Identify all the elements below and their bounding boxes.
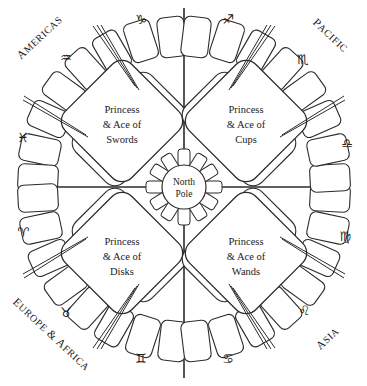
quadrant-label-wands: Princess [229, 236, 264, 247]
region-label-asia: ASIA [313, 324, 341, 351]
outer-card [180, 320, 212, 363]
outer-card [17, 183, 58, 212]
libra-icon: ♎ [341, 136, 353, 151]
quadrant-label-wands: Wands [232, 266, 260, 277]
quadrant-label-disks: & Ace of [103, 251, 142, 262]
scorpio-icon: ♏ [297, 52, 309, 67]
outer-card [309, 163, 350, 192]
quadrant-label-swords: & Ace of [103, 119, 142, 130]
quadrant-label-cups: Princess [229, 104, 264, 115]
quadrant-label-cups: & Ace of [227, 119, 266, 130]
quadrant-label-swords: Swords [106, 134, 138, 145]
tarot-wheel-diagram: Princess & Ace of Swords Princess & Ace … [0, 0, 367, 386]
virgo-icon: ♍ [339, 229, 351, 244]
quadrant-label-cups: Cups [235, 134, 257, 145]
quadrant-label-disks: Disks [110, 266, 134, 277]
hub-petal [146, 181, 164, 193]
pisces-icon: ♓ [17, 130, 29, 145]
hub-petal [178, 149, 190, 167]
north-pole-hub[interactable]: North Pole [162, 165, 206, 209]
quadrant-label-wands: & Ace of [227, 251, 266, 262]
quadrant-label-swords: Princess [105, 104, 140, 115]
aquarius-icon: ♒ [60, 50, 72, 65]
taurus-icon: ♉ [60, 305, 72, 320]
hub-label-line1: North [173, 177, 195, 187]
region-label-pacific: PACIFIC [311, 16, 351, 54]
hub-petal [204, 181, 222, 193]
cancer-icon: ♋ [222, 351, 234, 366]
hub-petal [178, 207, 190, 225]
outer-card [180, 16, 212, 59]
aries-icon: ♈ [17, 225, 29, 240]
sagittarius-icon: ♐ [222, 12, 234, 27]
leo-icon: ♌ [298, 303, 310, 318]
capricorn-icon: ♑ [135, 12, 147, 27]
region-label-americas: AMERICAS [14, 13, 64, 61]
quadrant-label-disks: Princess [105, 236, 140, 247]
gemini-icon: ♊ [135, 351, 147, 366]
hub-label-line2: Pole [176, 189, 193, 199]
